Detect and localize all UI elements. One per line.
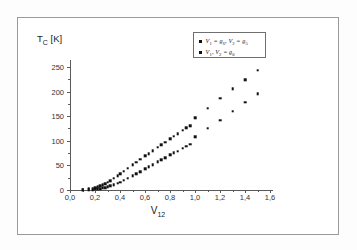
x-tick-label: 1,4: [240, 193, 250, 202]
x-axis-line: [70, 190, 273, 191]
data-point: [231, 88, 234, 91]
data-point: [119, 172, 122, 175]
data-point: [194, 136, 197, 139]
x-tick-minor: [208, 190, 209, 192]
legend-label-1: V1, V2 = g0: [206, 48, 235, 57]
data-point: [206, 127, 209, 130]
data-point: [160, 159, 163, 162]
y-tick-label: 0: [64, 186, 68, 195]
data-point: [112, 177, 115, 180]
x-tick-label: 1,2: [215, 193, 225, 202]
data-point: [172, 135, 175, 138]
data-point: [172, 152, 175, 155]
data-point: [147, 152, 150, 155]
x-tick-label: 1,6: [265, 193, 275, 202]
legend-marker-icon: [199, 40, 202, 43]
x-tick-minor: [108, 190, 109, 192]
data-point: [244, 78, 247, 81]
legend-item: V1 = g6, V2 = g5: [199, 36, 261, 47]
x-tick-minor: [233, 190, 234, 192]
x-tick-minor: [258, 190, 259, 192]
x-axis-title: V12: [151, 205, 165, 218]
data-point: [256, 92, 259, 95]
x-tick-label: 1,0: [190, 193, 200, 202]
data-point: [231, 110, 234, 113]
data-point: [169, 138, 172, 141]
x-axis-title-sub: 12: [157, 211, 165, 218]
data-point: [219, 97, 222, 100]
data-point: [81, 189, 84, 192]
x-tick-minor: [183, 190, 184, 192]
data-point: [156, 161, 159, 164]
data-point: [219, 119, 222, 122]
data-point: [194, 116, 197, 119]
data-point: [131, 174, 134, 177]
data-point: [164, 157, 167, 160]
data-point: [181, 147, 184, 150]
data-point: [164, 141, 167, 144]
data-point: [109, 179, 112, 182]
legend: V1 = g6, V2 = g5 V1, V2 = g0: [193, 32, 266, 58]
data-point: [256, 69, 259, 72]
data-point: [181, 129, 184, 132]
data-point: [244, 101, 247, 104]
data-point: [189, 143, 192, 146]
data-point: [131, 164, 134, 167]
data-point: [151, 149, 154, 152]
data-point: [144, 155, 147, 158]
x-tick-label: 0,6: [140, 193, 150, 202]
y-axis-title-unit: [K]: [48, 33, 62, 44]
data-point: [185, 145, 188, 148]
data-point: [160, 143, 163, 146]
data-point: [156, 146, 159, 149]
data-point: [135, 161, 138, 164]
x-tick-minor: [133, 190, 134, 192]
data-point: [185, 127, 188, 130]
data-point: [126, 177, 129, 180]
y-axis-title: TC [K]: [37, 33, 62, 46]
data-point: [176, 150, 179, 153]
data-point: [112, 183, 115, 186]
data-point: [206, 107, 209, 110]
data-point: [139, 158, 142, 161]
data-point: [151, 164, 154, 167]
data-point: [189, 124, 192, 127]
x-tick-label: 0,8: [165, 193, 175, 202]
data-point: [144, 168, 147, 171]
legend-label-0: V1 = g6, V2 = g5: [206, 37, 248, 46]
data-point: [122, 170, 125, 173]
data-point: [122, 179, 125, 182]
x-tick-label: 0,2: [90, 193, 100, 202]
chart-figure: TC [K] V12 0,00,20,40,60,81,01,21,41,6 0…: [0, 0, 357, 250]
data-point: [119, 181, 122, 184]
data-point: [139, 171, 142, 174]
plot-area: [70, 62, 270, 190]
legend-marker-icon: [199, 51, 202, 54]
legend-item: V1, V2 = g0: [199, 47, 261, 58]
data-point: [87, 188, 90, 191]
data-point: [147, 166, 150, 169]
data-point: [176, 133, 179, 136]
x-tick-minor: [158, 190, 159, 192]
x-axis-title-main: V: [151, 205, 158, 216]
x-tick-label: 0,4: [115, 193, 125, 202]
data-point: [169, 154, 172, 157]
data-point: [109, 185, 112, 188]
data-point: [135, 172, 138, 175]
data-point: [126, 167, 129, 170]
